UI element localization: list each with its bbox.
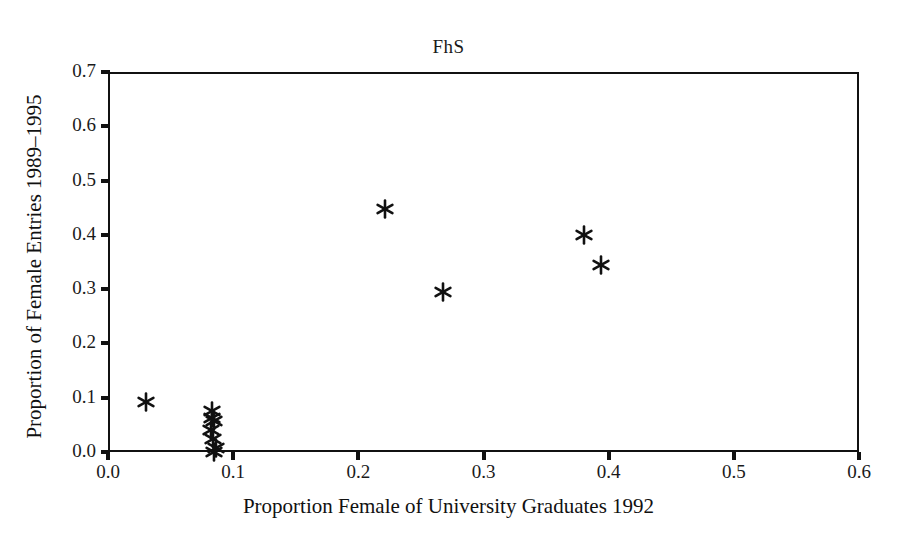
- data-point: [214, 452, 215, 453]
- data-point: [601, 265, 602, 266]
- y-axis-title: Proportion of Female Entries 1989–1995: [22, 47, 47, 487]
- x-axis-tick: [607, 452, 611, 460]
- x-axis-tick-label: 0.6: [824, 461, 894, 483]
- x-axis-tick: [231, 452, 235, 460]
- scatter-chart-figure: FhS Proportion of Female Entries 1989–19…: [0, 0, 897, 549]
- x-axis-tick-label: 0.3: [449, 461, 519, 483]
- x-axis-tick: [106, 452, 110, 460]
- x-axis-tick: [857, 452, 861, 460]
- y-axis-tick-label: 0.6: [32, 115, 96, 134]
- x-axis-tick-label: 0.0: [73, 461, 143, 483]
- chart-title: FhS: [0, 36, 897, 58]
- x-axis-tick-label: 0.1: [198, 461, 268, 483]
- y-axis-tick-label: 0.7: [32, 61, 96, 80]
- y-axis-tick-label: 0.2: [32, 332, 96, 351]
- y-axis-tick-label: 0.3: [32, 278, 96, 297]
- data-point: [443, 292, 444, 293]
- y-axis-tick-label: 0.4: [32, 224, 96, 243]
- x-axis-tick-label: 0.5: [699, 461, 769, 483]
- x-axis-tick-label: 0.2: [323, 461, 393, 483]
- x-axis-tick: [482, 452, 486, 460]
- x-axis-title: Proportion Female of University Graduate…: [0, 494, 897, 519]
- data-point: [385, 209, 386, 210]
- y-axis-tick-label: 0.0: [32, 441, 96, 460]
- y-axis-tick-label: 0.1: [32, 387, 96, 406]
- data-point: [146, 402, 147, 403]
- plot-area: [108, 72, 859, 452]
- y-axis-tick-label: 0.5: [32, 170, 96, 189]
- x-axis-tick-label: 0.4: [574, 461, 644, 483]
- data-point: [584, 235, 585, 236]
- x-axis-tick: [732, 452, 736, 460]
- x-axis-tick: [356, 452, 360, 460]
